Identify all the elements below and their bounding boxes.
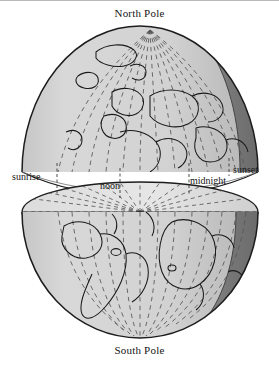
lower-hemisphere [22, 212, 262, 338]
earth-cutaway-illustration [0, 0, 279, 369]
label-noon: noon [100, 180, 120, 191]
earth-diagram-figure: North Pole sunrise noon midnight sunset … [0, 0, 279, 369]
label-north-pole: North Pole [0, 7, 279, 19]
label-sunset: sunset [233, 164, 258, 175]
label-sunrise: sunrise [12, 171, 40, 182]
upper-hemisphere [22, 26, 262, 196]
label-midnight: midnight [190, 175, 226, 186]
label-south-pole: South Pole [0, 344, 279, 356]
